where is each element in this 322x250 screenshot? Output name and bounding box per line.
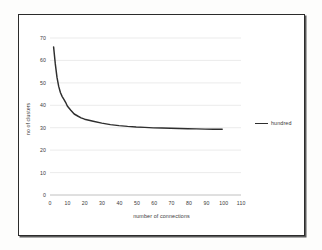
chart-figure-frame: 70 60 50 40 30 20 10 0 0 10 20 30 40 50 … <box>18 14 305 236</box>
legend-line-swatch <box>255 123 268 124</box>
chart-legend: hundred <box>255 120 291 126</box>
x-tick-label: 50 <box>129 200 145 206</box>
x-tick-label: 60 <box>146 200 162 206</box>
series-line-hundred <box>54 47 223 129</box>
x-tick-label: 80 <box>181 200 197 206</box>
x-tick-label: 10 <box>59 200 75 206</box>
y-tick-label: 40 <box>30 102 46 108</box>
y-axis-title: no of clusters <box>25 103 31 135</box>
y-tick-label: 70 <box>30 35 46 41</box>
y-tick-label: 60 <box>30 57 46 63</box>
x-tick-label: 30 <box>94 200 110 206</box>
x-tick-label: 40 <box>112 200 128 206</box>
x-axis-title: number of connections <box>19 213 304 219</box>
x-tick-label: 70 <box>164 200 180 206</box>
y-tick-label: 0 <box>30 192 46 198</box>
grid-lines <box>50 38 241 173</box>
x-tick-label: 90 <box>198 200 214 206</box>
y-tick-label: 30 <box>30 125 46 131</box>
chart-canvas: 70 60 50 40 30 20 10 0 0 10 20 30 40 50 … <box>19 15 304 235</box>
x-tick-label: 110 <box>233 200 249 206</box>
legend-label: hundred <box>271 120 291 126</box>
x-tick-label: 20 <box>77 200 93 206</box>
y-tick-label: 10 <box>30 170 46 176</box>
x-tick-label: 100 <box>216 200 232 206</box>
x-tick-label: 0 <box>42 200 58 206</box>
y-tick-label: 20 <box>30 147 46 153</box>
y-tick-label: 50 <box>30 80 46 86</box>
